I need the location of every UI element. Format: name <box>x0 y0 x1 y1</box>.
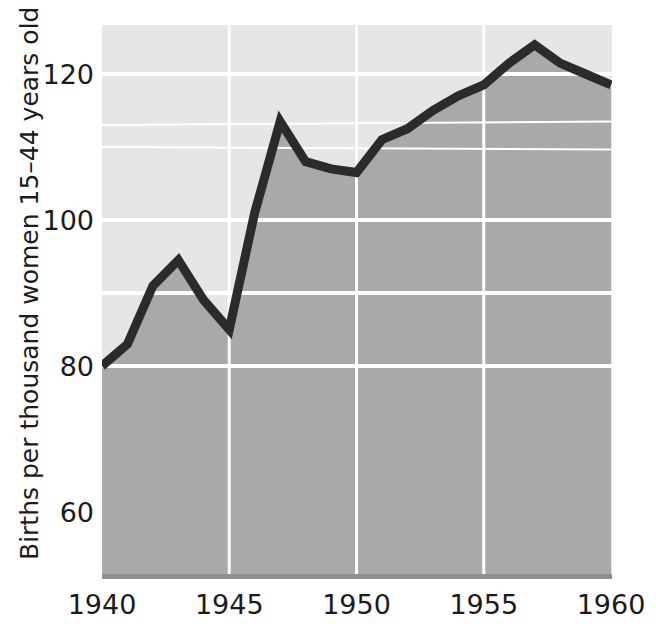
y-tick-label: 60 <box>60 497 94 528</box>
birth-rate-chart: 6080100120 19401945195019551960 Births p… <box>0 0 656 640</box>
x-tick-label: 1945 <box>195 589 264 620</box>
x-tick-label: 1950 <box>322 589 391 620</box>
y-tick-label: 100 <box>42 205 94 236</box>
x-tick-label: 1940 <box>68 589 137 620</box>
y-tick-label: 80 <box>60 351 94 382</box>
y-axis-tick-labels: 6080100120 <box>42 59 94 528</box>
y-axis-title: Births per thousand women 15–44 years ol… <box>15 7 44 560</box>
x-tick-label: 1960 <box>577 589 646 620</box>
x-axis-tick-labels: 19401945195019551960 <box>68 589 646 620</box>
y-tick-label: 120 <box>42 59 94 90</box>
axis-baseline <box>102 574 612 579</box>
chart-canvas: 6080100120 19401945195019551960 Births p… <box>0 0 656 640</box>
x-tick-label: 1955 <box>449 589 518 620</box>
